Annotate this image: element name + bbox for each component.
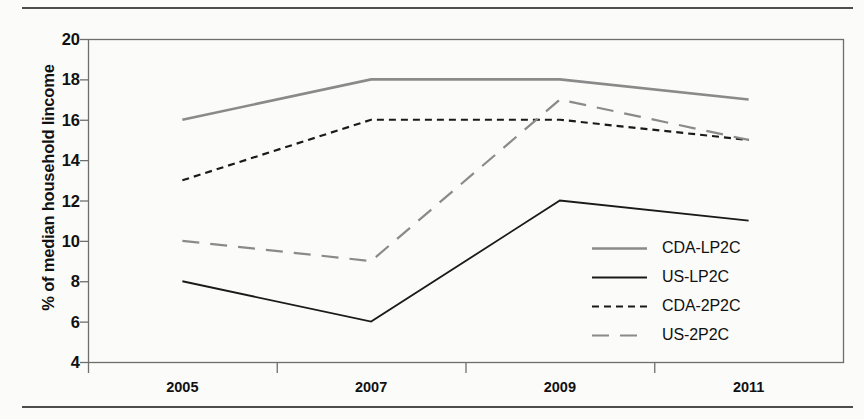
legend-label: US-2P2C	[662, 326, 729, 344]
series-line-cda-2p2c	[182, 120, 748, 181]
series-line-us-2p2c	[182, 100, 748, 262]
legend-label: US-LP2C	[662, 268, 729, 286]
legend-label: CDA-2P2C	[662, 297, 740, 315]
plot-area	[0, 0, 864, 419]
chart-figure: % of median household lincome 4681012141…	[0, 0, 864, 419]
legend-label: CDA-LP2C	[662, 239, 740, 257]
series-line-cda-lp2c	[182, 79, 748, 119]
